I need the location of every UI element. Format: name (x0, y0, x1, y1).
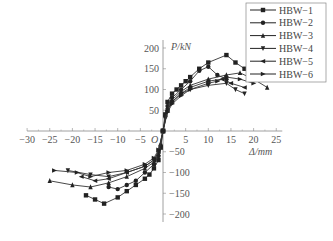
x-tick-label: 10 (203, 134, 213, 145)
x-tick-label: −30 (19, 134, 35, 145)
marker-square (188, 75, 192, 79)
marker-triangle-right (75, 170, 80, 174)
marker-square (179, 83, 183, 87)
y-tick-label: −200 (169, 209, 190, 220)
series-line (163, 55, 245, 131)
x-tick-label: 5 (183, 134, 188, 145)
marker-square (147, 172, 151, 176)
x-axis-label: Δ/mm (248, 146, 272, 157)
marker-circle (206, 64, 210, 68)
x-tick-label: −15 (87, 134, 103, 145)
marker-circle (143, 170, 147, 174)
marker-square (84, 193, 88, 197)
marker-square (143, 177, 147, 181)
marker-square (134, 183, 138, 187)
marker-square (125, 189, 129, 193)
x-tick-label: 20 (249, 134, 259, 145)
y-tick-label: 200 (144, 43, 159, 54)
marker-triangle-right (52, 168, 57, 172)
marker-triangle-right (106, 170, 111, 174)
legend-label: HBW−4 (279, 43, 313, 54)
y-tick-label: 100 (144, 84, 159, 95)
legend-label: HBW−2 (279, 17, 313, 28)
marker-circle (197, 69, 201, 73)
marker-square (174, 87, 178, 91)
y-tick-label: −100 (169, 167, 190, 178)
legend-label: HBW−6 (279, 69, 313, 80)
marker-triangle-left (92, 179, 97, 183)
y-tick-label: 150 (144, 63, 159, 74)
legend-label: HBW−5 (279, 56, 313, 67)
marker-triangle-right (238, 77, 243, 81)
origin-label: O (151, 134, 158, 145)
marker-square (170, 91, 174, 95)
marker-square (116, 195, 120, 199)
y-tick-label: −150 (169, 188, 190, 199)
hysteresis-chart: −30−25−20−15−10−551015202520015010050−50… (0, 0, 333, 241)
marker-square (233, 60, 237, 64)
legend-label: HBW−3 (279, 30, 313, 41)
y-tick-label: −50 (169, 146, 185, 157)
marker-square (206, 60, 210, 64)
x-tick-label: 15 (226, 134, 236, 145)
marker-circle (116, 187, 120, 191)
marker-circle (134, 179, 138, 183)
marker-triangle-up (238, 70, 242, 75)
marker-circle (261, 21, 265, 25)
marker-triangle-down (242, 91, 246, 96)
y-tick-label: 50 (149, 105, 159, 116)
marker-square (183, 79, 187, 83)
marker-square (93, 197, 97, 201)
marker-triangle-left (79, 174, 84, 178)
x-tick-label: −25 (42, 134, 58, 145)
marker-triangle-left (242, 85, 247, 89)
marker-square (152, 166, 156, 170)
marker-square (102, 201, 106, 205)
marker-triangle-up (48, 178, 52, 183)
marker-square (261, 8, 265, 12)
marker-square (224, 53, 228, 57)
marker-circle (106, 185, 110, 189)
x-tick-label: −20 (65, 134, 81, 145)
x-tick-label: 25 (271, 134, 281, 145)
marker-triangle-up (265, 85, 269, 90)
x-tick-label: −5 (135, 134, 146, 145)
marker-circle (125, 183, 129, 187)
legend-label: HBW−1 (279, 5, 313, 16)
y-axis-label: P/kN (170, 41, 192, 52)
legend: HBW−1HBW−2HBW−3HBW−4HBW−5HBW−6 (246, 3, 326, 82)
x-tick-label: −10 (110, 134, 126, 145)
